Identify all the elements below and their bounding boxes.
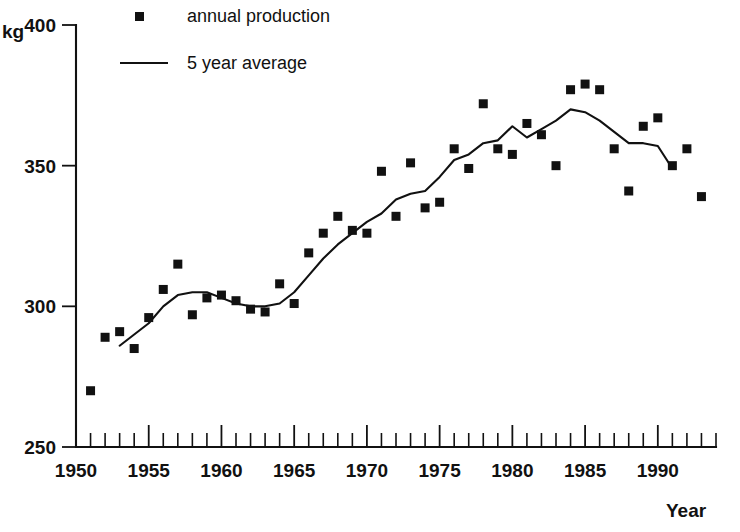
annual-production-point [217, 291, 226, 300]
annual-production-point [435, 198, 444, 207]
legend-item-five-year-average-label: 5 year average [187, 53, 307, 73]
annual-production-point [697, 192, 706, 201]
annual-production-point [537, 130, 546, 139]
annual-production-markers [86, 80, 706, 396]
annual-production-point [232, 296, 241, 305]
annual-production-point [86, 386, 95, 395]
legend-item-annual-production-label: annual production [187, 6, 330, 26]
y-tick-label: 250 [24, 437, 56, 458]
annual-production-point [159, 285, 168, 294]
annual-production-point [362, 229, 371, 238]
annual-production-point [144, 313, 153, 322]
annual-production-point [566, 85, 575, 94]
annual-production-point [624, 186, 633, 195]
annual-production-point [508, 150, 517, 159]
x-tick-label-group: 195019551960196519701975198019851990 [55, 460, 679, 481]
x-tick-label: 1975 [418, 460, 461, 481]
y-tick-label: 400 [24, 15, 56, 36]
x-tick-label: 1965 [273, 460, 316, 481]
x-tick-label: 1970 [346, 460, 388, 481]
annual-production-point [246, 305, 255, 314]
x-tick-label: 1955 [128, 460, 171, 481]
annual-production-point [101, 333, 110, 342]
annual-production-point [464, 164, 473, 173]
annual-production-point [319, 229, 328, 238]
annual-production-point [115, 327, 124, 336]
annual-production-point [493, 144, 502, 153]
annual-production-point [522, 119, 531, 128]
y-tick-label: 350 [24, 156, 56, 177]
annual-production-point [552, 161, 561, 170]
annual-production-point [333, 212, 342, 221]
chart-legend: annual production 5 year average [120, 6, 330, 73]
annual-production-point [392, 212, 401, 221]
annual-production-point [290, 299, 299, 308]
annual-production-point [668, 161, 677, 170]
x-tick-label: 1960 [200, 460, 242, 481]
annual-production-point [304, 248, 313, 257]
annual-production-point [421, 203, 430, 212]
annual-production-point [377, 167, 386, 176]
annual-production-point [595, 85, 604, 94]
annual-production-point [581, 80, 590, 89]
annual-production-point [682, 144, 691, 153]
annual-production-point [479, 99, 488, 108]
x-tick-label: 1990 [637, 460, 679, 481]
annual-production-point [610, 144, 619, 153]
annual-production-point [348, 226, 357, 235]
x-tick-label: 1980 [491, 460, 533, 481]
x-axis-name-label: Year [666, 500, 707, 521]
five-year-average-line [120, 109, 673, 345]
annual-production-point [406, 158, 415, 167]
y-axis-unit-label: kg [2, 21, 24, 42]
legend-square-marker-icon [135, 12, 144, 21]
x-tick-label: 1985 [564, 460, 607, 481]
annual-production-point [639, 122, 648, 131]
annual-production-point [188, 310, 197, 319]
annual-production-point [261, 307, 270, 316]
y-tick-group [62, 25, 76, 447]
chart-canvas: 250300350400 195019551960196519701975198… [0, 0, 740, 532]
axes-group [76, 25, 716, 447]
annual-production-point [275, 279, 284, 288]
annual-production-point [173, 260, 182, 269]
y-tick-label: 300 [24, 296, 56, 317]
x-tick-label: 1950 [55, 460, 97, 481]
annual-production-point [130, 344, 139, 353]
y-tick-label-group: 250300350400 [24, 15, 56, 458]
annual-production-point [450, 144, 459, 153]
annual-production-point [653, 113, 662, 122]
annual-production-point [202, 293, 211, 302]
x-minor-tick-group [91, 433, 716, 447]
production-chart: 250300350400 195019551960196519701975198… [0, 0, 740, 532]
